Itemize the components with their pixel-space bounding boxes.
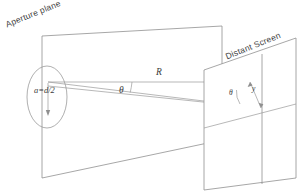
screen-offset-label: y [252, 84, 255, 93]
distance-label: R [156, 67, 162, 77]
aperture-plane [42, 26, 222, 178]
optics-diagram-svg [0, 0, 302, 194]
aperture-plane-group [27, 26, 222, 178]
screen-angle-label: θ [229, 88, 233, 97]
aperture-angle-label: θ [119, 85, 124, 95]
diagram-canvas: Aperture plane Distant Screen a=d/2 R θ … [0, 0, 302, 194]
aperture-radius-label: a=d/2 [34, 85, 55, 95]
